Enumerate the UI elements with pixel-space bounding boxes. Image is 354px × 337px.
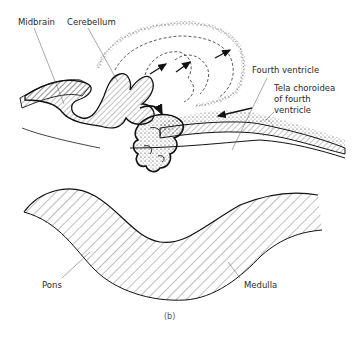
label-cerebellum: Cerebellum — [67, 17, 116, 27]
midbrain-cerebellum-shape — [25, 74, 154, 128]
pons-medulla-shape — [24, 189, 322, 300]
label-tela-line3: ventricle — [274, 105, 311, 115]
choroid-plexus-shape — [134, 115, 184, 172]
label-fourth-ventricle: Fourth ventricle — [252, 65, 319, 75]
figure-caption: (b) — [164, 312, 175, 322]
label-tela-line2: of fourth — [274, 94, 311, 104]
label-tela-line1: Tela choroidea — [274, 83, 335, 93]
label-pons: Pons — [42, 280, 62, 290]
label-medulla: Medulla — [244, 280, 277, 290]
label-midbrain: Midbrain — [18, 17, 55, 27]
